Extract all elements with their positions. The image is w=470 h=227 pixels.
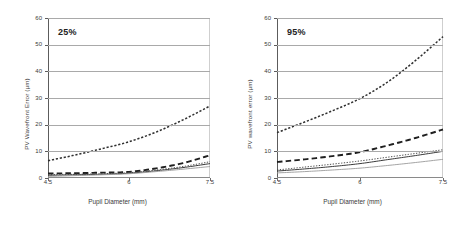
y-tick-label: 50	[255, 41, 271, 47]
data-series-line	[277, 37, 443, 133]
y-tick-label: 30	[255, 95, 271, 101]
y-tick-label: 20	[26, 121, 42, 127]
y-tick-label: 20	[255, 121, 271, 127]
gridline	[48, 125, 210, 126]
y-axis-tick	[274, 18, 277, 19]
x-axis-title: Pupil Diameter (mm)	[235, 198, 470, 205]
x-axis-tick	[360, 178, 361, 181]
y-axis-tick	[45, 18, 48, 19]
y-axis-tick	[274, 98, 277, 99]
y-axis-tick	[274, 125, 277, 126]
x-axis-tick	[277, 178, 278, 181]
y-axis-tick	[45, 71, 48, 72]
gridline	[277, 18, 443, 19]
y-tick-label: 0	[26, 175, 42, 181]
x-axis-tick	[443, 178, 444, 181]
data-series-line	[48, 155, 210, 173]
data-series-line	[48, 106, 210, 161]
y-axis-tick	[45, 45, 48, 46]
y-tick-label: 50	[26, 41, 42, 47]
gridline	[277, 125, 443, 126]
y-tick-label: 60	[255, 15, 271, 21]
y-axis-tick	[274, 151, 277, 152]
gridline	[277, 151, 443, 152]
data-series-line	[277, 159, 443, 173]
plot-area-25: 25% 4.567.5	[48, 18, 210, 178]
gridline	[48, 98, 210, 99]
y-tick-label: 10	[255, 148, 271, 154]
x-axis-tick	[129, 178, 130, 181]
y-axis-tick	[45, 125, 48, 126]
y-tick-label: 40	[255, 68, 271, 74]
gridline	[48, 45, 210, 46]
plot-area-95: 95% 4.567.5	[277, 18, 443, 178]
y-tick-label: 60	[26, 15, 42, 21]
gridline	[48, 18, 210, 19]
chart-panel-25: PV Wavefront Error (µm) 0102030405060 25…	[0, 0, 235, 227]
gridline	[48, 151, 210, 152]
y-tick-label: 10	[26, 148, 42, 154]
gridline	[277, 98, 443, 99]
data-series-line	[277, 129, 443, 162]
figure-two-panel-chart: PV Wavefront Error (µm) 0102030405060 25…	[0, 0, 470, 227]
x-axis-tick	[210, 178, 211, 181]
gridline	[277, 45, 443, 46]
y-tick-label: 40	[26, 68, 42, 74]
y-tick-label: 30	[26, 95, 42, 101]
gridline	[48, 71, 210, 72]
x-axis-title: Pupil Diameter (mm)	[0, 198, 235, 205]
y-axis-tick	[45, 151, 48, 152]
y-tick-label: 0	[255, 175, 271, 181]
y-axis-tick	[274, 71, 277, 72]
y-axis-tick	[274, 45, 277, 46]
chart-panel-95: PV wavefront error (µm) 0102030405060 95…	[235, 0, 470, 227]
gridline	[277, 71, 443, 72]
x-axis-tick	[48, 178, 49, 181]
y-axis-tick	[45, 98, 48, 99]
